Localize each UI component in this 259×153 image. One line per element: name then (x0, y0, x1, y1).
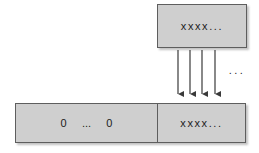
destination-value-label: xxxx... (158, 117, 245, 129)
destination-zero-padding-field: 0 ... 0 (16, 104, 158, 142)
destination-box: 0 ... 0 xxxx... (15, 103, 246, 143)
destination-value-field: xxxx... (158, 104, 245, 142)
arrow-ellipsis-label: ... (224, 64, 250, 76)
destination-zero-padding-label: 0 ... 0 (16, 117, 157, 129)
source-box-label: xxxx... (158, 20, 246, 32)
source-box: xxxx... (157, 4, 247, 48)
diagram-canvas: xxxx... ... 0 ... 0 xxxx... (0, 0, 259, 153)
